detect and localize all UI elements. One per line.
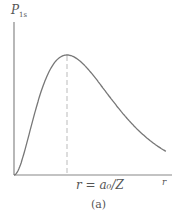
- x-axis-label: r: [162, 177, 166, 187]
- y-axis-label: P1s: [11, 3, 27, 19]
- figure-caption: (a): [91, 198, 106, 211]
- peak-annotation: r = a₀/Z: [76, 178, 124, 192]
- probability-curve: [14, 55, 166, 175]
